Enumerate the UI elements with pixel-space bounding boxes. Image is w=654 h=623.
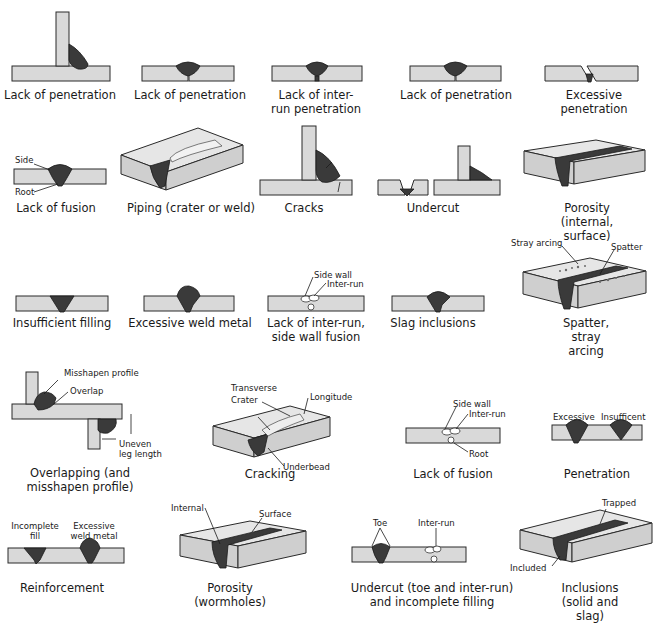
caption-lack-of-fusion-2: Lack of fusion	[413, 467, 493, 481]
figure-undercut-toe-inter-run	[352, 528, 466, 563]
caption-penetration: Penetration	[564, 467, 630, 481]
label-root-2: Root	[469, 449, 488, 459]
caption-cracks: Cracks	[285, 201, 324, 215]
label-misshapen-profile: Misshapen profile	[64, 368, 139, 378]
figure-overlapping	[12, 372, 131, 449]
caption-excessive-penetration: Excessive penetration	[560, 88, 627, 116]
label-crater: Crater	[231, 395, 258, 405]
caption-slag-inclusions: Slag inclusions	[390, 316, 475, 330]
label-side-wall-2: Side wall	[453, 399, 491, 409]
figure-lack-of-penetration-tee	[12, 12, 110, 81]
caption-lack-of-fusion-1: Lack of fusion	[16, 201, 96, 215]
caption-lack-of-inter-run-penetration: Lack of inter- run penetration	[271, 88, 361, 116]
caption-porosity-internal-surface: Porosity (internal, surface)	[554, 201, 621, 243]
label-side: Side	[15, 155, 33, 165]
label-transverse: Transverse	[231, 383, 277, 393]
caption-lack-of-penetration-tee: Lack of penetration	[4, 88, 116, 102]
label-inter-run: Inter-run	[327, 279, 364, 289]
figure-spatter-stray-arcing	[523, 246, 646, 309]
label-toe: Toe	[373, 518, 387, 528]
label-trapped: Trapped	[602, 498, 636, 508]
figure-excessive-weld-metal	[144, 286, 234, 312]
figure-slag-inclusions	[392, 292, 484, 313]
caption-insufficient-filling: Insufficient filling	[13, 316, 112, 330]
label-excessive-weld-metal: Excessive weld metal	[70, 521, 117, 541]
caption-lack-of-penetration-butt-1: Lack of penetration	[134, 88, 246, 102]
caption-undercut: Undercut	[407, 201, 460, 215]
label-root: Root	[15, 187, 34, 197]
figure-lack-of-penetration-butt-1	[142, 62, 234, 81]
label-excessive: Excessive	[553, 412, 595, 422]
figure-reinforcement	[8, 538, 124, 564]
figure-piping	[121, 128, 243, 190]
label-longitude: Longitude	[310, 392, 352, 402]
caption-inclusions: Inclusions (solid and slag)	[558, 581, 622, 623]
figure-undercut	[378, 146, 500, 196]
figure-lack-of-inter-run-penetration	[272, 62, 362, 81]
caption-porosity-wormholes: Porosity (wormholes)	[194, 581, 266, 609]
caption-reinforcement: Reinforcement	[20, 581, 104, 595]
caption-excessive-weld-metal: Excessive weld metal	[128, 316, 252, 330]
label-internal: Internal	[171, 503, 204, 513]
label-insufficent: Insufficent	[601, 412, 646, 422]
figure-penetration	[552, 420, 642, 444]
label-spatter: Spatter	[611, 242, 642, 252]
label-inter-run-2: Inter-run	[469, 409, 506, 419]
label-uneven-leg-length: Uneven leg length	[119, 439, 162, 459]
figure-lack-of-penetration-butt-2	[410, 62, 501, 81]
label-surface: Surface	[259, 509, 291, 519]
label-incomplete-fill: Incomplete fill	[11, 521, 59, 541]
caption-lack-of-penetration-butt-2: Lack of penetration	[400, 88, 512, 102]
caption-undercut-toe-inter-run: Undercut (toe and inter-run) and incompl…	[351, 581, 513, 609]
label-included: Included	[510, 563, 546, 573]
caption-lack-of-inter-run-side-wall-fusion: Lack of inter-run, side wall fusion	[267, 316, 365, 344]
figure-excessive-penetration	[545, 66, 638, 82]
caption-spatter-stray-arcing: Spatter, stray arcing	[552, 316, 620, 358]
label-stray-arcing: Stray arcing	[511, 238, 563, 248]
figure-cracking	[213, 398, 330, 466]
figure-inclusions	[520, 509, 652, 566]
label-underbead: Underbead	[283, 462, 330, 472]
label-overlap: Overlap	[70, 386, 103, 396]
label-inter-run-3: Inter-run	[418, 518, 455, 528]
figure-porosity-internal-surface	[524, 140, 645, 186]
figure-cracks	[260, 126, 352, 195]
figure-insufficient-filling	[16, 296, 108, 312]
caption-piping: Piping (crater or weld)	[127, 201, 255, 215]
caption-overlapping: Overlapping (and misshapen profile)	[27, 466, 134, 494]
